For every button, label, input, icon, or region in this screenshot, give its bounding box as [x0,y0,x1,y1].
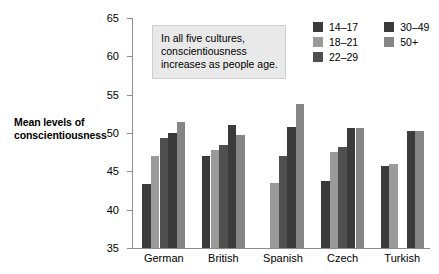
bar [236,135,245,248]
legend-item[interactable]: 30–49 [384,22,429,32]
y-axis-tick: 45 [127,171,132,172]
annotation-line-3: increases as people age. [161,58,278,71]
bar [228,125,237,248]
legend-swatch-icon [384,37,394,47]
bar [321,181,330,248]
bar [389,164,398,248]
y-axis-tick: 65 [127,18,132,19]
bar [338,147,347,248]
x-axis-category-label: Czech [327,252,358,264]
y-axis-title-line-2: conscientiousness [14,129,110,142]
x-axis-category-label: Turkish [384,252,420,264]
y-axis-tick-label: 45 [107,165,119,177]
bar [211,150,220,248]
x-axis-category-label: British [208,252,239,264]
legend-swatch-icon [384,22,394,32]
legend-item[interactable]: 18–21 [313,37,358,47]
bar [407,131,416,248]
annotation-line-2: conscientiousness [161,45,278,58]
legend-item[interactable]: 22–29 [313,52,358,62]
x-axis-line [132,248,430,249]
y-axis-tick-label: 65 [107,12,119,24]
bar [415,131,424,248]
y-axis-tick-label: 50 [107,127,119,139]
y-axis-tick: 50 [127,133,132,134]
y-axis-tick: 35 [127,248,132,249]
legend-item[interactable]: 50+ [384,37,429,47]
chart-legend: 14–1718–2122–29 30–4950+ [313,22,429,62]
bar [202,156,211,248]
y-axis-tick-label: 55 [107,89,119,101]
bar [142,184,151,248]
bar [160,138,169,248]
bar [270,183,279,248]
y-axis-tick: 55 [127,95,132,96]
y-axis-title-line-1: Mean levels of [14,116,110,129]
legend-item-label: 50+ [400,36,418,48]
y-axis-tick: 40 [127,210,132,211]
y-axis-tick-label: 35 [107,242,119,254]
bar [287,127,296,248]
legend-item-label: 14–17 [329,21,358,33]
y-axis-tick-label: 40 [107,204,119,216]
bar [381,166,390,248]
x-axis-category-label: Spanish [263,252,303,264]
legend-column-1: 14–1718–2122–29 [313,22,358,62]
legend-item-label: 18–21 [329,36,358,48]
x-axis-category-label: German [144,252,184,264]
bar [356,128,365,248]
bar [151,156,160,248]
annotation-callout: In all five cultures, conscientiousness … [152,25,286,79]
legend-item-label: 22–29 [329,51,358,63]
y-axis-tick-label: 60 [107,50,119,62]
bar [177,122,186,249]
y-axis-tick: 60 [127,56,132,57]
legend-item-label: 30–49 [400,21,429,33]
y-axis-title: Mean levels of conscientiousness [14,116,110,141]
bar [330,152,339,248]
y-axis-line [132,18,133,249]
legend-swatch-icon [313,52,323,62]
bar [347,128,356,248]
bar [168,133,177,248]
chart-figure: Mean levels of conscientiousness 3540455… [0,0,439,274]
annotation-line-1: In all five cultures, [161,32,278,45]
legend-item[interactable]: 14–17 [313,22,358,32]
legend-column-2: 30–4950+ [384,22,429,62]
bar [279,156,288,248]
legend-swatch-icon [313,37,323,47]
legend-swatch-icon [313,22,323,32]
bar [219,145,228,248]
bar [296,104,305,248]
